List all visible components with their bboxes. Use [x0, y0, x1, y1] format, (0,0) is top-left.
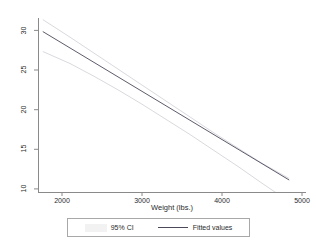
- y-tick-label: 10: [20, 178, 27, 200]
- fitted-line-swatch-icon: [158, 227, 188, 228]
- ci-lower-line: [43, 52, 289, 192]
- chart-legend: 95% CI Fitted values: [67, 218, 250, 237]
- y-axis: 30 25 20 15 10: [0, 0, 38, 192]
- legend-label-fitted: Fitted values: [193, 224, 233, 231]
- y-tick-label: 25: [20, 59, 27, 81]
- y-tick-label: 15: [20, 138, 27, 160]
- plot-svg: [38, 18, 306, 192]
- fitted-values-line: [43, 32, 289, 180]
- legend-entry-ci: 95% CI: [85, 219, 134, 236]
- chart-figure: 30 25 20 15 10 2000: [0, 0, 316, 249]
- x-axis-title: Weight (lbs.): [38, 203, 306, 212]
- legend-entry-fitted: Fitted values: [148, 219, 233, 236]
- ci-upper-line: [43, 20, 289, 179]
- y-tick-label: 30: [20, 20, 27, 42]
- y-tick-label: 20: [20, 99, 27, 121]
- legend-label-ci: 95% CI: [111, 224, 134, 231]
- ci-band-swatch-icon: [85, 224, 107, 232]
- plot-area: [38, 18, 306, 192]
